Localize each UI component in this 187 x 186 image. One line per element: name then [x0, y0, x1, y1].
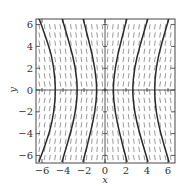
slope-mark — [86, 130, 87, 135]
slope-mark — [55, 114, 56, 119]
slope-mark — [97, 65, 98, 70]
slope-mark — [65, 106, 66, 111]
slope-mark — [128, 65, 129, 70]
slope-mark — [70, 57, 71, 62]
slope-mark — [81, 139, 82, 144]
slope-mark — [133, 49, 134, 54]
slope-mark — [160, 81, 161, 86]
slope-mark — [170, 130, 171, 135]
slope-mark — [107, 130, 108, 135]
slope-mark — [76, 49, 77, 54]
slope-mark — [70, 139, 71, 144]
slope-mark — [123, 49, 124, 54]
slope-mark — [86, 81, 87, 86]
slope-mark — [97, 122, 98, 127]
slope-mark — [86, 73, 87, 78]
x-tick-label: −2 — [77, 165, 92, 176]
slope-mark — [65, 155, 66, 160]
slope-mark — [102, 106, 103, 111]
y-tick-label: −4 — [18, 128, 33, 139]
slope-mark — [44, 24, 45, 29]
slope-mark — [154, 130, 155, 135]
slope-mark — [102, 24, 103, 29]
slope-mark — [113, 130, 114, 135]
slope-mark — [118, 32, 119, 37]
slope-mark — [55, 24, 56, 29]
slope-mark — [60, 98, 61, 103]
slope-mark — [55, 32, 56, 37]
slope-mark — [55, 65, 56, 70]
slope-mark — [128, 41, 129, 46]
slope-mark — [86, 114, 87, 119]
slope-mark — [70, 155, 71, 160]
slope-mark — [133, 130, 134, 135]
slope-mark — [165, 130, 166, 135]
slope-mark — [128, 49, 129, 54]
slope-mark — [65, 130, 66, 135]
slope-mark — [49, 155, 50, 160]
slope-mark — [139, 114, 140, 119]
slope-mark — [113, 49, 114, 54]
slope-mark — [102, 98, 103, 103]
slope-mark — [81, 130, 82, 135]
slope-mark — [102, 81, 103, 86]
slope-mark — [92, 73, 93, 78]
slope-mark — [154, 49, 155, 54]
slope-mark — [76, 41, 77, 46]
slope-mark — [65, 122, 66, 127]
slope-mark — [102, 65, 103, 70]
slope-mark — [107, 49, 108, 54]
slope-mark — [154, 155, 155, 160]
slope-mark — [86, 122, 87, 127]
slope-mark — [39, 114, 40, 119]
slope-mark — [133, 57, 134, 62]
slope-mark — [128, 139, 129, 144]
slope-mark — [49, 24, 50, 29]
slope-mark — [154, 139, 155, 144]
slope-mark — [170, 81, 171, 86]
y-axis-label: y — [7, 87, 18, 94]
slope-mark — [160, 147, 161, 152]
slope-mark — [160, 65, 161, 70]
slope-mark — [70, 65, 71, 70]
slope-mark — [107, 65, 108, 70]
slope-mark — [39, 49, 40, 54]
slope-mark — [49, 106, 50, 111]
slope-mark — [86, 41, 87, 46]
slope-mark — [60, 73, 61, 78]
slope-mark — [76, 139, 77, 144]
slope-mark — [92, 32, 93, 37]
slope-mark — [81, 147, 82, 152]
slope-mark — [123, 98, 124, 103]
slope-mark — [97, 114, 98, 119]
y-tick-label: −6 — [18, 150, 33, 161]
slope-mark — [102, 122, 103, 127]
slope-mark — [92, 41, 93, 46]
slope-mark — [165, 57, 166, 62]
slope-mark — [107, 155, 108, 160]
slope-mark — [170, 49, 171, 54]
slope-mark — [144, 81, 145, 86]
slope-mark — [107, 139, 108, 144]
slope-mark — [149, 24, 150, 29]
x-tick-label: −6 — [35, 165, 50, 176]
slope-mark — [149, 114, 150, 119]
slope-mark — [139, 32, 140, 37]
slope-mark — [65, 41, 66, 46]
slope-mark — [44, 73, 45, 78]
x-tick-label: −4 — [56, 165, 71, 176]
slope-mark — [49, 57, 50, 62]
slope-mark — [60, 24, 61, 29]
slope-mark — [92, 81, 93, 86]
slope-mark — [170, 106, 171, 111]
slope-mark — [44, 57, 45, 62]
slope-mark — [39, 139, 40, 144]
slope-mark — [139, 155, 140, 160]
slope-mark — [160, 139, 161, 144]
slope-mark — [118, 73, 119, 78]
slope-mark — [154, 65, 155, 70]
slope-mark — [144, 98, 145, 103]
slope-mark — [92, 155, 93, 160]
slope-mark — [86, 65, 87, 70]
slope-mark — [92, 65, 93, 70]
